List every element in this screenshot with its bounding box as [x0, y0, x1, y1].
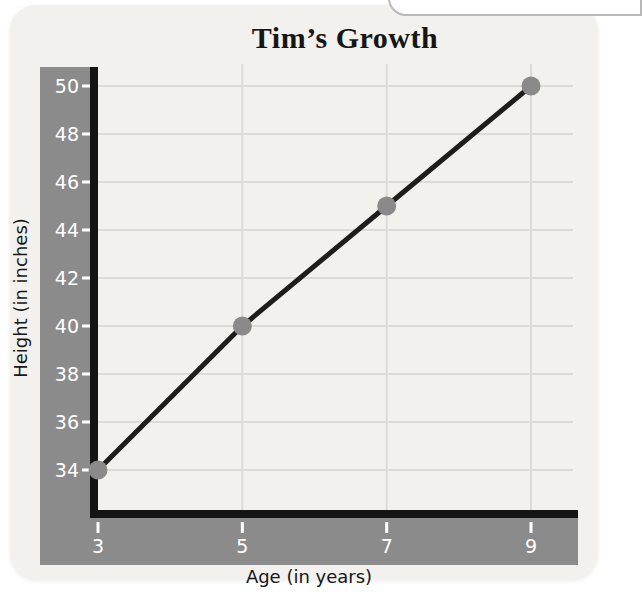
y-axis-line — [90, 67, 98, 518]
y-tick-mark — [82, 421, 90, 424]
y-tick-mark — [82, 373, 90, 376]
x-axis-label: Age (in years) — [40, 566, 578, 587]
y-tick-label: 46 — [55, 171, 79, 193]
x-tick-label: 5 — [236, 535, 248, 557]
y-tick-mark — [82, 85, 90, 88]
x-tick-mark — [385, 522, 388, 533]
y-tick-label: 36 — [55, 411, 79, 433]
y-tick-label: 38 — [55, 363, 79, 385]
y-tick-label: 50 — [55, 75, 79, 97]
y-axis-label: Height (in inches) — [10, 218, 31, 378]
y-tick-mark — [82, 277, 90, 280]
x-tick-mark — [241, 522, 244, 533]
data-point — [377, 197, 396, 216]
y-tick-label: 40 — [55, 315, 79, 337]
y-tick-label: 42 — [55, 267, 79, 289]
y-tick-mark — [82, 229, 90, 232]
axis-band-horizontal — [40, 518, 578, 565]
data-point — [233, 317, 252, 336]
x-tick-label: 7 — [381, 535, 393, 557]
x-tick-label: 3 — [92, 535, 104, 557]
data-point — [522, 77, 541, 96]
y-tick-mark — [82, 133, 90, 136]
chart-title: Tim’s Growth — [70, 21, 620, 55]
y-tick-mark — [82, 181, 90, 184]
x-tick-mark — [97, 522, 100, 533]
y-tick-label: 48 — [55, 123, 79, 145]
x-axis-line — [90, 510, 578, 518]
overlapping-card-corner — [388, 0, 642, 16]
y-tick-mark — [82, 325, 90, 328]
data-point — [89, 461, 108, 480]
y-tick-label: 44 — [55, 219, 79, 241]
y-tick-label: 34 — [55, 459, 79, 481]
x-tick-mark — [530, 522, 533, 533]
x-tick-label: 9 — [525, 535, 537, 557]
